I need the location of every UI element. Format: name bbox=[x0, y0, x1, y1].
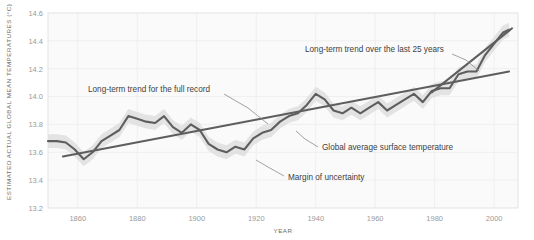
y-tick-label: 13.4 bbox=[28, 176, 43, 185]
y-tick-label: 13.2 bbox=[28, 204, 43, 213]
climate-chart: 13.213.413.613.814.014.214.414.6 1860188… bbox=[0, 0, 534, 240]
y-tick-label: 14.6 bbox=[28, 9, 43, 18]
x-axis-title: YEAR bbox=[273, 227, 292, 234]
annotation-label: Long-term trend over the last 25 years bbox=[305, 45, 444, 54]
y-tick-label: 13.6 bbox=[28, 148, 43, 157]
x-tick-label: 1880 bbox=[129, 214, 146, 223]
y-tick-label: 14.2 bbox=[28, 65, 43, 74]
annotation-label: Global average surface temperature bbox=[322, 143, 454, 152]
y-axis-title: ESTIMATED ACTUAL GLOBAL MEAN TEMPERATURE… bbox=[5, 4, 12, 200]
annotation-label: Margin of uncertainty bbox=[288, 173, 365, 182]
x-tick-label: 1900 bbox=[188, 214, 205, 223]
y-tick-label: 13.8 bbox=[28, 120, 43, 129]
x-tick-label: 1860 bbox=[69, 214, 86, 223]
chart-svg: 13.213.413.613.814.014.214.414.6 1860188… bbox=[0, 0, 534, 240]
y-tick-label: 14.0 bbox=[28, 92, 43, 101]
annotation-label: Long-term trend for the full record bbox=[88, 85, 210, 94]
x-tick-label: 1920 bbox=[248, 214, 265, 223]
plot-area-background bbox=[48, 13, 518, 208]
x-tick-label: 1960 bbox=[367, 214, 384, 223]
x-tick-label: 1980 bbox=[426, 214, 443, 223]
x-tick-label: 1940 bbox=[307, 214, 324, 223]
y-tick-label: 14.4 bbox=[28, 37, 43, 46]
x-tick-label: 2000 bbox=[486, 214, 503, 223]
